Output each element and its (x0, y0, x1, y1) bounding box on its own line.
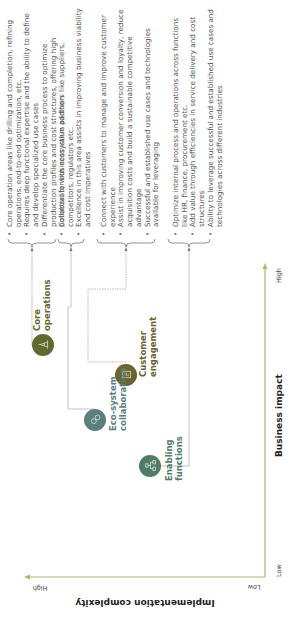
x-axis-low-tick: Low (275, 564, 283, 577)
description-item: Add value through efficiencies in servic… (189, 6, 206, 227)
matrix-diagram: Implementation complexity High Low Busin… (0, 0, 294, 617)
description-item: Assist in improving customer conversion … (117, 6, 143, 227)
y-axis-low-tick: Low (248, 583, 261, 591)
description-item: Collaborate with ecosystem partners like… (58, 6, 75, 227)
description-item: Optimize internal process and operations… (172, 6, 189, 227)
enabling-functions-bubble (139, 455, 161, 477)
y-axis-label: Implementation complexity (65, 598, 225, 608)
y-axis-high-tick: High (33, 584, 48, 592)
eco-system-description: Collaborate with ecosystem partners like… (58, 6, 93, 236)
description-item: Ability to leverage successful and estab… (207, 6, 224, 227)
description-item: Successful and established use cases and… (144, 6, 161, 227)
org-chart-icon (144, 460, 157, 473)
gears-icon (89, 414, 102, 427)
description-item: Requires deep functional expertise and t… (23, 6, 40, 227)
core-operations-bubble (32, 334, 54, 356)
description-item: Connect with customers to manage and imp… (100, 6, 117, 227)
oil-rig-icon (37, 339, 50, 352)
description-item: Excellence in this area assists in impro… (75, 6, 92, 227)
core-operations-label: Coreoperations (32, 279, 52, 331)
x-axis-high-tick: High (275, 268, 283, 283)
enabling-functions-label: Enablingfunctions (164, 436, 184, 481)
eco-system-collaboration-label: Eco-systemcollaboration (108, 368, 128, 431)
enabling-functions-description: Optimize internal process and operations… (172, 6, 224, 236)
description-item: Core operation areas like drilling and c… (6, 6, 23, 227)
eco-system-collaboration-bubble (84, 409, 106, 431)
customer-engagement-label: Customerengagement (138, 317, 158, 377)
x-axis-label: Business impact (274, 374, 284, 457)
customer-engagement-description: Connect with customers to manage and imp… (100, 6, 161, 236)
